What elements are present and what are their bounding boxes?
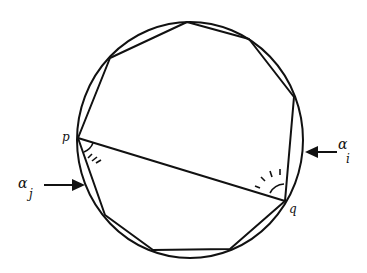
label-alpha-j: α [18,176,27,190]
label-q: q [289,203,297,215]
angle-hatch-q [255,169,280,188]
angle-hatch-p [88,154,101,163]
arrow-alpha-i-head [305,146,318,158]
diagram-canvas: p q α i α j [0,0,367,273]
label-alpha-i: α [338,137,347,151]
label-alpha-i-subscript: i [346,153,350,165]
angle-arc-q [270,184,284,193]
diagram-svg [0,0,367,273]
label-alpha-j-subscript: j [29,188,33,200]
label-p: p [62,131,70,143]
chord-pq [78,138,285,201]
angle-arc-p [84,143,93,152]
